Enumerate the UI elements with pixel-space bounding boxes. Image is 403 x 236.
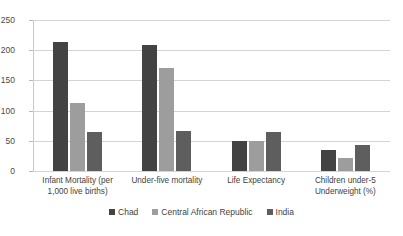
x-axis-category-label: Life Expectancy [212,175,301,186]
legend-label: Chad [118,208,138,217]
x-axis-category-label: Infant Mortality (per 1,000 live births) [33,175,122,197]
legend-swatch-icon [109,209,115,215]
legend-label: India [276,208,294,217]
x-axis-category-label: Children under-5 Underweight (%) [301,175,390,197]
legend-item[interactable]: Chad [109,208,138,217]
y-axis-labels: 050100150200250 [33,20,390,171]
bar-chart: 050100150200250 Infant Mortality (per 1,… [0,0,403,236]
legend-swatch-icon [267,209,273,215]
y-axis-tick-label: 100 [0,107,15,116]
y-axis-tick-label: 150 [0,76,15,85]
x-axis-category-labels: Infant Mortality (per 1,000 live births)… [33,175,390,205]
legend-item[interactable]: India [267,208,294,217]
y-axis-tick-label: 200 [0,46,15,55]
y-axis-tick-label: 50 [0,137,15,146]
legend-swatch-icon [152,209,158,215]
y-axis-tick [29,171,33,172]
chart-legend: ChadCentral African RepublicIndia [0,208,403,217]
y-axis-tick-label: 0 [0,167,15,176]
gridline [33,171,390,172]
legend-label: Central African Republic [161,208,252,217]
y-axis-tick-label: 250 [0,16,15,25]
legend-item[interactable]: Central African Republic [152,208,252,217]
x-axis-category-label: Under-five mortality [122,175,211,186]
